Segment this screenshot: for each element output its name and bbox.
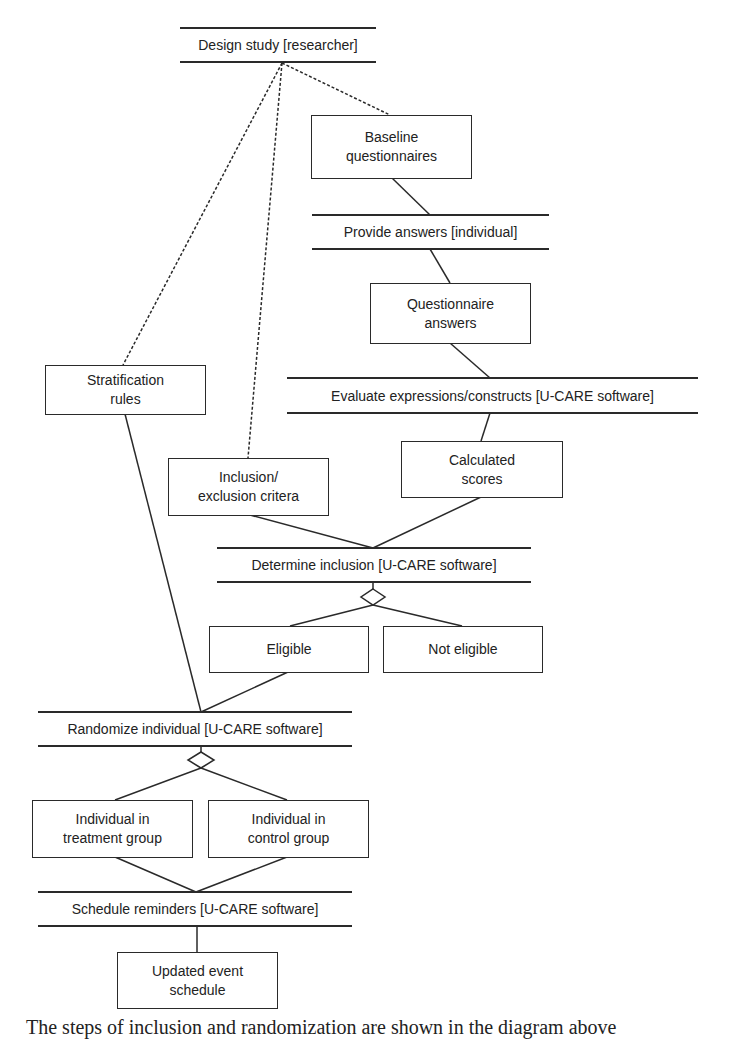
object-not-eligible: Not eligible (383, 626, 543, 673)
figure-caption: The steps of inclusion and randomization… (26, 1016, 616, 1039)
dashed-edge-stratification (123, 63, 282, 365)
activity-randomize-individual: Randomize individual [U-CARE software] (38, 711, 352, 747)
activity-label: Determine inclusion [U-CARE software] (251, 557, 496, 573)
activity-provide-answers: Provide answers [individual] (312, 214, 549, 250)
activity-label: Design study [researcher] (198, 37, 358, 53)
activity-evaluate-expressions: Evaluate expressions/constructs [U-CARE … (287, 377, 698, 414)
activity-label: Randomize individual [U-CARE software] (67, 721, 322, 737)
activity-schedule-reminders: Schedule reminders [U-CARE software] (38, 891, 352, 927)
object-eligible: Eligible (209, 626, 369, 673)
dashed-edge-baseline (282, 63, 390, 115)
activity-label: Evaluate expressions/constructs [U-CARE … (331, 388, 654, 404)
object-inclusion-exclusion-criteria: Inclusion/exclusion critera (168, 458, 329, 516)
object-calculated-scores: Calculatedscores (401, 441, 563, 498)
object-control-group: Individual incontrol group (208, 800, 369, 858)
activity-label: Provide answers [individual] (344, 224, 518, 240)
object-treatment-group: Individual intreatment group (32, 800, 193, 858)
activity-determine-inclusion: Determine inclusion [U-CARE software] (217, 547, 531, 583)
activity-label: Schedule reminders [U-CARE software] (72, 901, 319, 917)
object-updated-event-schedule: Updated eventschedule (117, 952, 278, 1009)
object-questionnaire-answers: Questionnaireanswers (370, 283, 531, 344)
activity-design-study: Design study [researcher] (180, 27, 376, 63)
object-stratification-rules: Stratificationrules (45, 365, 206, 415)
dashed-edge-inclusion (248, 63, 282, 458)
object-baseline-questionnaires: Baselinequestionnaires (311, 115, 472, 179)
